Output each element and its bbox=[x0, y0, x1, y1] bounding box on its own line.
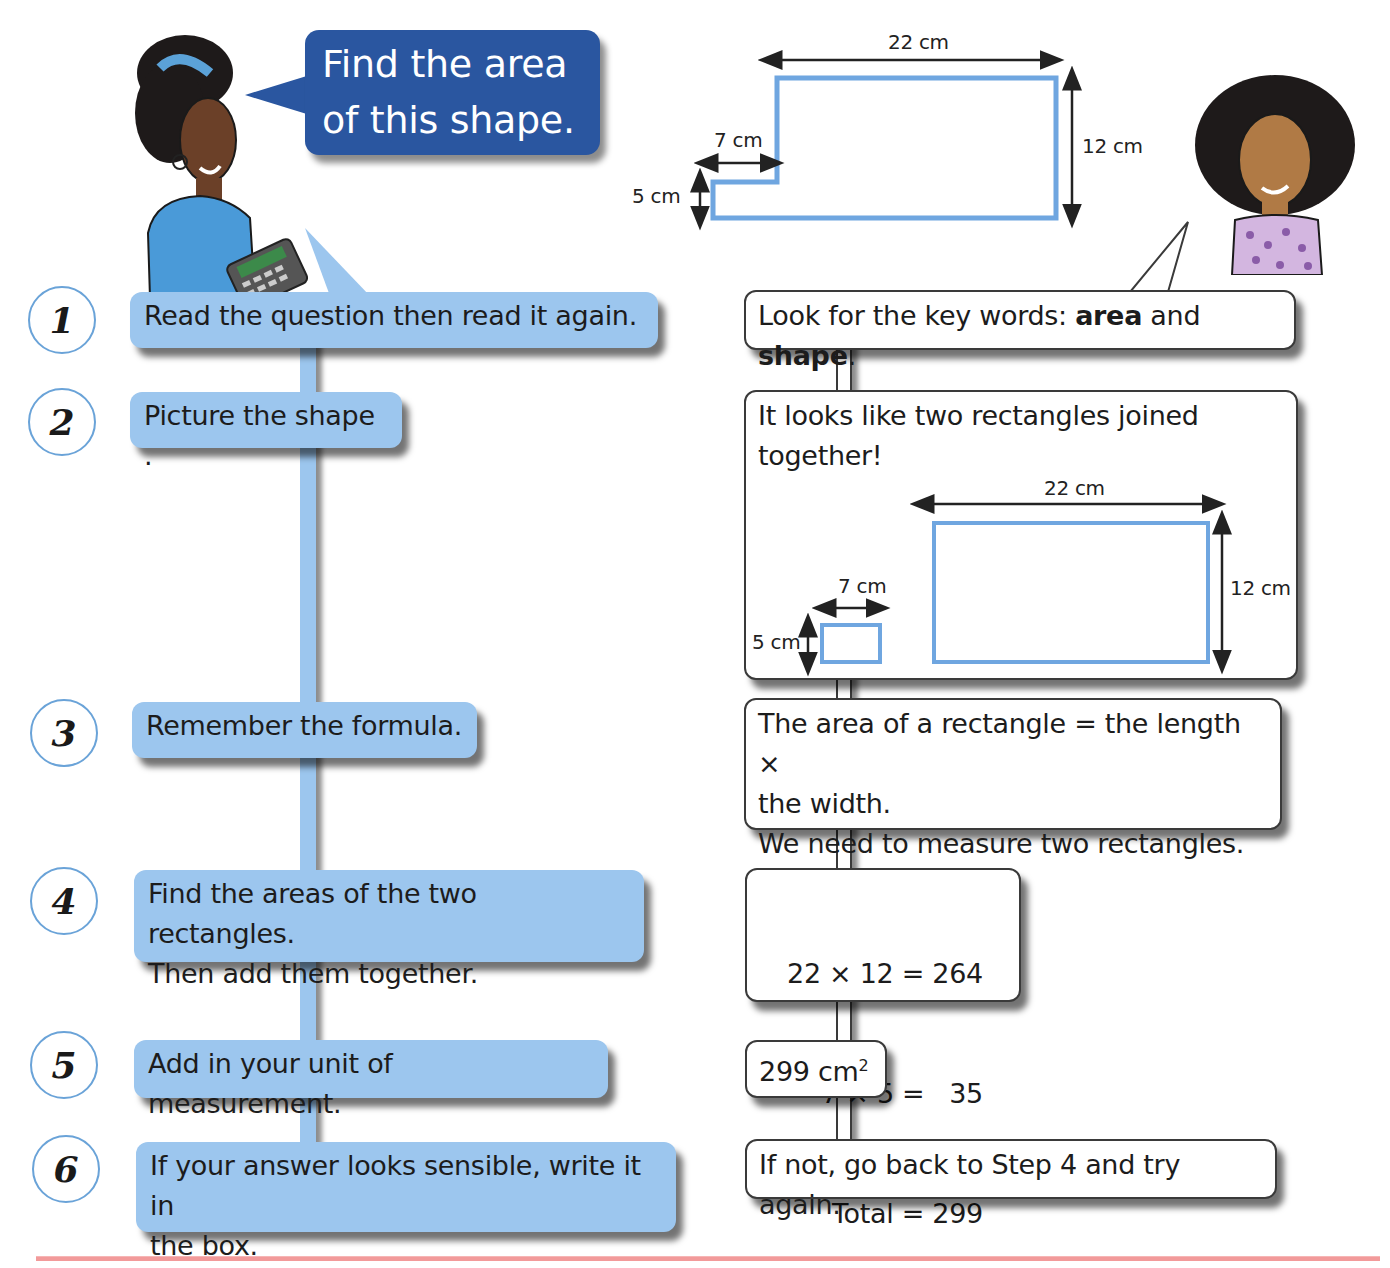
step-6-box: If your answer looks sensible, write it … bbox=[136, 1142, 676, 1232]
step-number-2: 2 bbox=[28, 388, 96, 456]
step-number-label: 6 bbox=[53, 1148, 78, 1190]
step-2-box: Picture the shape . bbox=[130, 392, 402, 448]
dim-label-22cm: 22 cm bbox=[888, 30, 949, 54]
keyword-area: area bbox=[1075, 300, 1142, 331]
dim-label-small-height: 5 cm bbox=[752, 630, 800, 654]
answer-5-value: 299 cm bbox=[759, 1056, 858, 1087]
answer-3-line-3: We need to measure two rectangles. bbox=[758, 824, 1268, 864]
answer-3-line-1: The area of a rectangle = the length × bbox=[758, 704, 1268, 784]
student-bubble-tail bbox=[1110, 220, 1200, 295]
dim-label-big-width: 22 cm bbox=[1044, 476, 1105, 500]
bottom-divider-rule bbox=[36, 1256, 1380, 1261]
answer-5-box: 299 cm2 bbox=[745, 1040, 887, 1098]
answer-1-suffix: . bbox=[848, 340, 856, 371]
step-number-6: 6 bbox=[32, 1135, 100, 1203]
step-number-3: 3 bbox=[30, 699, 98, 767]
step-5-text: Add in your unit of measurement. bbox=[148, 1048, 393, 1119]
student-character-illustration bbox=[1190, 70, 1370, 275]
step-1-text: Read the question then read it again. bbox=[144, 300, 637, 331]
teacher-bubble-tail bbox=[300, 228, 380, 298]
step-number-1: 1 bbox=[28, 286, 96, 354]
dim-label-5cm: 5 cm bbox=[632, 184, 680, 208]
keyword-shape: shape bbox=[758, 340, 848, 371]
step-6-text-line-1: If your answer looks sensible, write it … bbox=[150, 1146, 662, 1226]
step-5-box: Add in your unit of measurement. bbox=[134, 1040, 608, 1098]
answer-1-box: Look for the key words: area and shape. bbox=[744, 290, 1296, 350]
step-2-text: Picture the shape . bbox=[144, 400, 375, 471]
question-line-1: Find the area bbox=[322, 36, 602, 92]
answer-4-box: 22 × 12 = 264 7 × 5 = 35 Total = 299 bbox=[745, 868, 1021, 1002]
step-4-text-line-2: Then add them together. bbox=[148, 954, 630, 994]
step-4-box: Find the areas of the two rectangles. Th… bbox=[134, 870, 644, 962]
step-3-text: Remember the formula. bbox=[146, 710, 462, 741]
step-number-label: 4 bbox=[51, 880, 76, 922]
answer-2-line-1: It looks like two rectangles joined bbox=[758, 396, 1284, 436]
dim-label-big-height: 12 cm bbox=[1230, 576, 1291, 600]
question-text: Find the area of this shape. bbox=[322, 36, 602, 148]
step-number-4: 4 bbox=[30, 867, 98, 935]
step-4-text-line-1: Find the areas of the two rectangles. bbox=[148, 874, 630, 954]
teacher-character-illustration bbox=[120, 28, 320, 298]
dim-label-7cm: 7 cm bbox=[714, 128, 762, 152]
question-line-2: of this shape. bbox=[322, 92, 602, 148]
answer-5-unit-exponent: 2 bbox=[858, 1056, 868, 1075]
step-number-label: 5 bbox=[51, 1044, 76, 1086]
answer-1-prefix: Look for the key words: bbox=[758, 300, 1075, 331]
step-1-box: Read the question then read it again. bbox=[130, 292, 658, 348]
answer-3-line-2: the width. bbox=[758, 784, 1268, 824]
answer-1-mid: and bbox=[1142, 300, 1200, 331]
step-3-box: Remember the formula. bbox=[132, 702, 477, 758]
calc-line-1: 22 × 12 = 264 bbox=[759, 954, 983, 994]
answer-3-box: The area of a rectangle = the length × t… bbox=[744, 698, 1282, 830]
step-number-label: 3 bbox=[51, 712, 76, 754]
dim-label-12cm: 12 cm bbox=[1082, 134, 1143, 158]
step-number-label: 1 bbox=[49, 299, 74, 341]
step-number-5: 5 bbox=[30, 1031, 98, 1099]
dim-label-small-width: 7 cm bbox=[838, 574, 886, 598]
two-rectangles-diagram bbox=[740, 470, 1320, 680]
step-number-label: 2 bbox=[49, 401, 74, 443]
answer-6-box: If not, go back to Step 4 and try again. bbox=[745, 1139, 1277, 1199]
